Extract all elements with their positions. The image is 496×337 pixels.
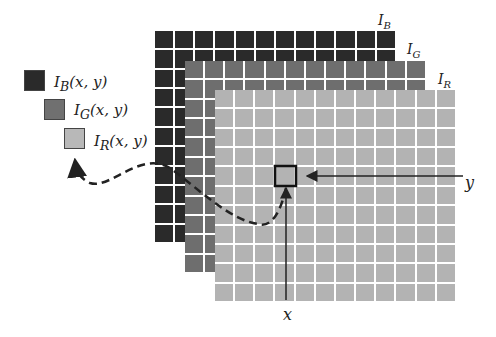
y-axis-label: y — [465, 173, 474, 192]
annotation-overlay — [0, 0, 496, 337]
dashed-mapping-arrow — [75, 160, 286, 225]
x-axis-label: x — [283, 305, 292, 324]
selected-pixel-box — [275, 166, 296, 186]
